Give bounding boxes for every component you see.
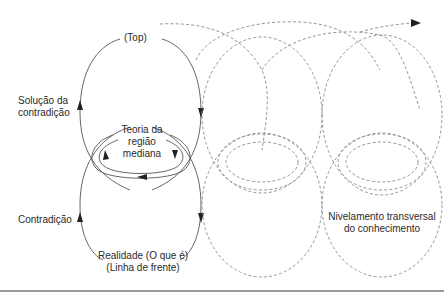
arrow-inner-bottom-icon [137, 174, 147, 180]
bottom-rule-divider [0, 290, 444, 292]
label-leveling: Nivelamento transversal do conhecimento [318, 211, 444, 235]
arrow-up-left-lower-icon [77, 212, 83, 222]
label-top: (Top) [124, 32, 147, 44]
label-reality: Realidade (O que é) (Linha de frente) [98, 250, 188, 274]
label-reality-line2: (Linha de frente) [98, 262, 188, 274]
label-contradiction: Contradição [18, 214, 72, 226]
arrow-right-dashed-icon [411, 19, 421, 27]
label-solution: Solução da contradição [18, 95, 70, 119]
arrow-inner-right-icon [172, 150, 178, 159]
label-leveling-line1: Nivelamento transversal [318, 211, 444, 223]
diagram-graphic [0, 0, 444, 298]
label-reality-line1: Realidade (O que é) [98, 250, 188, 262]
label-solution-line2: contradição [18, 107, 70, 119]
arrow-up-left-upper-icon [77, 100, 83, 110]
label-theory-line1: Teoria da [114, 124, 170, 136]
label-theory-line3: mediana [114, 148, 170, 160]
dashed-inner-ellipse-3a [338, 134, 426, 190]
label-solution-line1: Solução da [18, 95, 70, 107]
label-leveling-line2: do conhecimento [318, 223, 444, 235]
arrow-inner-left-icon [103, 150, 109, 160]
label-theory-line2: região [114, 136, 170, 148]
label-theory: Teoria da região mediana [114, 124, 170, 160]
dashed-inner-ellipse-3b [346, 142, 418, 182]
upper-solid-loop [80, 39, 201, 190]
arrow-down-right-upper-icon [198, 108, 204, 118]
